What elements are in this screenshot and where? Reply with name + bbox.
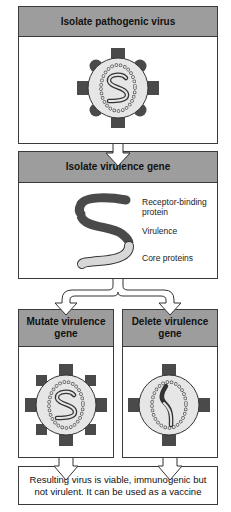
result-box: Resulting virus is viable, immunogenic b… — [18, 466, 218, 505]
step-title: Isolate pathogenic virus — [61, 16, 175, 28]
step-header: Mutate virulence gene — [19, 310, 113, 347]
result-text: Resulting virus is viable, immunogenic b… — [25, 474, 211, 498]
step-header: Delete virulence gene — [123, 310, 217, 347]
step-isolate-pathogenic-virus: Isolate pathogenic virus — [18, 6, 218, 144]
label-receptor-binding-protein: Receptor-binding protein — [142, 197, 207, 217]
label-line: protein — [142, 207, 207, 217]
step-title: Mutate virulence gene — [23, 316, 109, 340]
step-header: Isolate virulence gene — [19, 152, 217, 183]
step-header: Isolate pathogenic virus — [19, 7, 217, 37]
label-core-proteins: Core proteins — [142, 253, 193, 263]
step-title: Delete virulence gene — [127, 316, 213, 340]
step-title: Isolate virulence gene — [66, 161, 171, 173]
step-mutate-virulence-gene: Mutate virulence gene — [18, 309, 114, 458]
step-delete-virulence-gene: Delete virulence gene — [122, 309, 218, 458]
label-line: Receptor-binding — [142, 197, 207, 207]
label-virulence: Virulence — [142, 226, 177, 236]
